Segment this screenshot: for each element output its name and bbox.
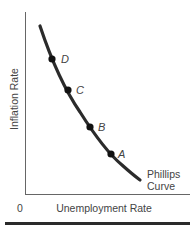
bottom-rule — [5, 222, 190, 225]
point-d-label: D — [61, 53, 69, 65]
phillips-curve-chart: D C B A Phillips Curve 0 Unemployment Ra… — [0, 0, 192, 226]
curve-label-line2: Curve — [147, 180, 175, 192]
point-a-label: A — [117, 148, 125, 160]
x-axis-label: Unemployment Rate — [56, 202, 152, 214]
point-c-label: C — [76, 84, 84, 96]
curve-label-line1: Phillips — [147, 168, 180, 180]
y-axis-label: Inflation Rate — [8, 68, 20, 130]
point-a — [107, 150, 114, 157]
point-c — [64, 86, 71, 93]
origin-label: 0 — [17, 202, 23, 214]
point-b-label: B — [98, 121, 105, 133]
point-d — [48, 55, 55, 62]
point-b — [86, 123, 93, 130]
